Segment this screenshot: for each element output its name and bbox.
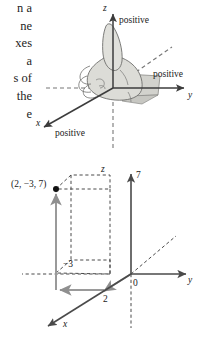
z-axis-label: z	[100, 164, 105, 174]
x-tick-label-2: 2	[103, 294, 108, 304]
data-point-marker	[53, 186, 59, 192]
x-axis-label: x	[35, 118, 41, 128]
y-axis-label: y	[187, 275, 193, 285]
y-axis-label: y	[187, 90, 193, 100]
y-positive-label: positive	[153, 69, 183, 79]
z-tick-label-7: 7	[136, 170, 141, 180]
x-positive-label: positive	[55, 128, 85, 138]
z-axis-label: z	[102, 3, 107, 13]
dashed-reference-lines	[22, 236, 176, 328]
origin-label: 0	[133, 278, 138, 288]
point-coordinate-label: (2, −3, 7)	[11, 179, 46, 190]
z-positive-label: positive	[119, 15, 149, 25]
figure-right-hand-rule: z positive y positive x positive	[0, 0, 197, 150]
y-tick-label-neg3: −3	[63, 259, 73, 269]
figure-plotted-point: (2, −3, 7) z 7 y −3 x 2 0	[0, 150, 197, 339]
guide-arrows	[56, 194, 131, 291]
page-root: n a ne xes a s of the e	[0, 0, 197, 339]
x-axis-label: x	[62, 319, 68, 329]
axes	[48, 174, 186, 326]
